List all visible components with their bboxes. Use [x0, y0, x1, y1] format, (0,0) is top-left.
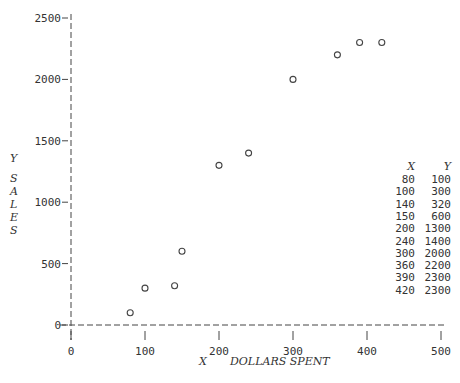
y-tick-label: 1000 — [35, 196, 62, 209]
table-cell: 2200 — [425, 259, 452, 272]
table-cell: 240 — [395, 235, 415, 248]
table-cell: 2300 — [425, 284, 452, 297]
x-tick-label: 0 — [68, 345, 75, 358]
y-axis-title-letter: L — [9, 198, 17, 211]
data-point — [357, 40, 363, 46]
table-cell: 150 — [395, 210, 415, 223]
table-cell: 420 — [395, 284, 415, 297]
x-axis-title: DOLLARS SPENT — [229, 355, 331, 368]
data-point — [179, 248, 185, 254]
table-cell: 140 — [395, 198, 415, 211]
data-point — [127, 310, 133, 316]
data-point — [246, 150, 252, 156]
y-axis-title-letter: S — [10, 224, 18, 237]
table-cell: 1300 — [425, 222, 452, 235]
y-tick-label: 500 — [41, 258, 61, 271]
x-axis-ticks: 0100200300400500 — [68, 331, 451, 358]
x-axis-letter: X — [198, 355, 208, 368]
data-point — [334, 52, 340, 58]
table-cell: 2300 — [425, 271, 452, 284]
table-cell: 200 — [395, 222, 415, 235]
table-header: X — [406, 160, 416, 173]
x-tick-label: 400 — [357, 345, 377, 358]
y-axis-title-letter: E — [9, 211, 18, 224]
table-cell: 360 — [395, 259, 415, 272]
y-tick-label: 2000 — [35, 73, 62, 86]
x-tick-label: 200 — [209, 345, 229, 358]
data-table: XY80100100300140320150600200130024014003… — [395, 160, 453, 297]
y-tick-label: 1500 — [35, 135, 62, 148]
table-cell: 300 — [431, 185, 451, 198]
table-cell: 300 — [395, 247, 415, 260]
data-point — [172, 283, 178, 289]
table-cell: 1400 — [425, 235, 452, 248]
y-axis-title-letter: A — [9, 185, 18, 198]
x-tick-label: 500 — [431, 345, 451, 358]
table-cell: 390 — [395, 271, 415, 284]
y-axis-ticks: 05001000150020002500 — [35, 12, 69, 332]
table-cell: 320 — [431, 198, 451, 211]
table-cell: 100 — [395, 185, 415, 198]
data-point — [216, 162, 222, 168]
x-tick-label: 100 — [135, 345, 155, 358]
table-header: Y — [444, 160, 453, 173]
table-cell: 2000 — [425, 247, 452, 260]
y-tick-label: 2500 — [35, 12, 62, 25]
data-point — [142, 285, 148, 291]
y-axis-letter: Y — [10, 152, 19, 165]
y-axis-title-letter: S — [10, 172, 18, 185]
table-cell: 600 — [431, 210, 451, 223]
data-points — [127, 40, 385, 316]
data-point — [290, 76, 296, 82]
table-cell: 80 — [402, 173, 415, 186]
table-cell: 100 — [431, 173, 451, 186]
data-point — [379, 40, 385, 46]
scatter-chart: 05001000150020002500 0100200300400500 Y … — [0, 0, 460, 383]
y-axis-title: SALES — [9, 172, 18, 237]
